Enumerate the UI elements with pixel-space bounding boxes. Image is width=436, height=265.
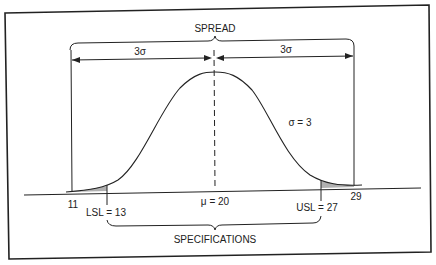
- normal-curve: [66, 72, 362, 192]
- spread-bracket: [70, 36, 354, 50]
- tick-left-3sigma: 11: [68, 199, 79, 210]
- sigma-label: σ = 3: [288, 117, 312, 128]
- lsl-label: LSL = 13: [86, 207, 126, 218]
- left-3sigma-arrow: [72, 58, 207, 60]
- arrowhead-icon: [204, 55, 212, 61]
- mean-line: [214, 50, 215, 188]
- arrowhead-icon: [216, 55, 224, 61]
- process-capability-diagram: SPREAD 3σ 3σ σ = 3 11 μ = 20 29 LSL = 13…: [0, 0, 436, 265]
- spread-label: SPREAD: [194, 23, 235, 34]
- left-3sigma-line: [71, 50, 72, 192]
- tick-mean: μ = 20: [201, 196, 230, 207]
- arrowhead-icon: [72, 57, 80, 63]
- specifications-label: SPECIFICATIONS: [174, 234, 257, 245]
- left-3sigma-label: 3σ: [134, 46, 147, 57]
- arrowhead-icon: [345, 53, 353, 59]
- tick-right-3sigma: 29: [350, 191, 362, 202]
- specifications-bracket: [107, 216, 321, 230]
- usl-label: USL = 27: [296, 202, 338, 213]
- right-3sigma-label: 3σ: [280, 44, 293, 55]
- right-3sigma-arrow: [218, 56, 353, 58]
- diagram-frame: [5, 5, 431, 259]
